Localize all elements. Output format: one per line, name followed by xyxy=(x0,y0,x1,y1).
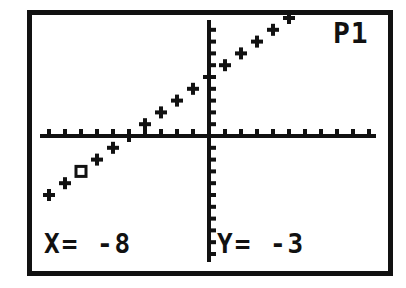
plus-marker-icon xyxy=(235,47,247,59)
plus-marker-icon xyxy=(171,95,183,107)
plot-indicator: P1 xyxy=(333,17,369,50)
x-axis-tick xyxy=(63,129,67,134)
x-axis-tick xyxy=(271,129,275,134)
plus-marker-icon xyxy=(267,24,279,36)
x-axis-tick xyxy=(223,129,227,134)
y-axis-tick xyxy=(211,146,216,150)
x-axis-tick xyxy=(287,129,291,134)
x-axis-tick xyxy=(47,129,51,134)
plus-marker-icon xyxy=(91,154,103,166)
x-axis-tick xyxy=(303,129,307,134)
x-axis-tick xyxy=(335,129,339,134)
x-axis-tick xyxy=(255,129,259,134)
y-axis-tick xyxy=(211,99,216,103)
trace-cursor-icon xyxy=(76,166,86,176)
trace-x-readout: X= -8 xyxy=(44,229,132,259)
x-axis-tick xyxy=(239,129,243,134)
y-axis-tick xyxy=(211,63,216,67)
x-axis-tick xyxy=(111,129,115,134)
x-axis-tick xyxy=(367,129,371,134)
y-axis-tick xyxy=(211,28,216,32)
x-axis-tick xyxy=(95,129,99,134)
y-axis-tick xyxy=(211,193,216,197)
plus-marker-icon xyxy=(123,130,135,142)
x-axis-tick xyxy=(79,129,83,134)
plus-marker-icon xyxy=(187,83,199,95)
y-axis-tick xyxy=(211,40,216,44)
plus-marker-icon xyxy=(219,59,231,71)
y-axis-tick xyxy=(211,252,216,256)
x-axis-tick xyxy=(191,129,195,134)
x-axis-tick xyxy=(159,129,163,134)
plus-marker-icon xyxy=(203,71,215,83)
y-axis-tick xyxy=(211,181,216,185)
y-axis-tick xyxy=(211,87,216,91)
plus-marker-icon xyxy=(139,118,151,130)
plus-marker-icon xyxy=(251,36,263,48)
y-axis-tick xyxy=(211,205,216,209)
trace-y-readout: Y= -3 xyxy=(217,229,305,259)
y-axis-tick xyxy=(211,169,216,173)
y-axis xyxy=(207,20,211,262)
plus-marker-icon xyxy=(155,106,167,118)
y-axis-tick xyxy=(211,51,216,55)
y-axis-tick xyxy=(211,228,216,232)
plus-marker-icon xyxy=(43,189,55,201)
x-axis-tick xyxy=(175,129,179,134)
y-axis-tick xyxy=(211,122,216,126)
x-axis-tick xyxy=(351,129,355,134)
x-axis-tick xyxy=(319,129,323,134)
y-axis-tick xyxy=(211,217,216,221)
y-axis-tick xyxy=(211,158,216,162)
plus-marker-icon xyxy=(59,177,71,189)
plus-marker-icon xyxy=(283,12,295,24)
y-axis-tick xyxy=(211,240,216,244)
y-axis-tick xyxy=(211,110,216,114)
plus-marker-icon xyxy=(107,142,119,154)
